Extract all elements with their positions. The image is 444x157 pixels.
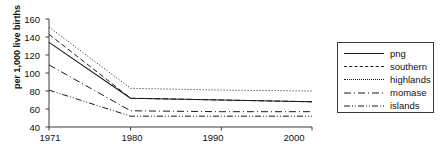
legend-label: momase [390,86,426,99]
series-line-momase [49,65,312,112]
legend-item-png[interactable]: png [344,47,436,60]
legend-swatch-solid-icon [344,53,384,54]
legend-label: highlands [390,73,431,86]
legend-swatch-dashed-icon [344,66,384,67]
legend-label: islands [390,99,420,112]
legend-label: png [390,47,406,60]
series-line-southern [49,34,312,102]
legend-item-highlands[interactable]: highlands [344,73,436,86]
legend-item-islands[interactable]: islands [344,99,436,112]
legend-label: southern [390,60,427,73]
legend: png southern highlands momase is [337,42,434,113]
legend-item-southern[interactable]: southern [344,60,436,73]
line-chart-figure: per 1,000 live births 160 140 120 100 80… [0,0,444,157]
series-line-islands [49,90,312,116]
series-line-png [49,42,312,101]
series-group [49,27,312,116]
axes-group [46,19,313,131]
series-line-highlands [49,27,312,91]
legend-item-momase[interactable]: momase [344,86,436,99]
legend-swatch-dotted-icon [344,79,384,80]
